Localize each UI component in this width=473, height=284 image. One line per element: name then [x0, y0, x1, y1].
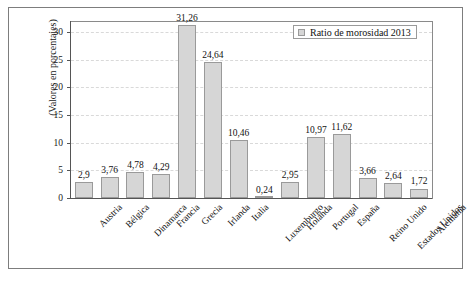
- y-axis-tick-label: 30: [37, 27, 63, 37]
- gridline: [71, 143, 432, 144]
- bar: [410, 189, 428, 199]
- gridline: [71, 115, 432, 116]
- legend-label: Ratio de morosidad 2013: [310, 27, 411, 38]
- x-axis-line: [70, 198, 433, 199]
- bar-value-label: 0,24: [244, 185, 284, 195]
- bar: [307, 137, 325, 198]
- legend-swatch-icon: [298, 29, 305, 36]
- y-axis-tick-label: 5: [37, 165, 63, 175]
- gridline: [71, 60, 432, 61]
- bar-value-label: 24,64: [193, 50, 233, 60]
- chart-legend: Ratio de morosidad 2013: [293, 25, 417, 39]
- bar: [101, 177, 119, 198]
- plot-border-right: [432, 21, 433, 199]
- bar: [75, 182, 93, 198]
- y-axis-tick-label: 0: [37, 193, 63, 203]
- bar-value-label: 31,26: [167, 13, 207, 23]
- y-axis-tick-label: 25: [37, 55, 63, 65]
- gridline: [71, 87, 432, 88]
- y-axis-tick-label: 10: [37, 138, 63, 148]
- bar-value-label: 2,95: [270, 170, 310, 180]
- chart-figure: (Valores en porcentajes) 051015202530 2,…: [0, 0, 473, 284]
- bar-value-label: 4,29: [141, 162, 181, 172]
- bar-value-label: 1,72: [399, 176, 439, 186]
- bar-value-label: 10,46: [219, 128, 259, 138]
- y-axis-tick-label: 15: [37, 110, 63, 120]
- bar: [255, 196, 273, 198]
- bar: [126, 172, 144, 198]
- y-axis-tick-label: 20: [37, 82, 63, 92]
- bar: [152, 174, 170, 198]
- bar-value-label: 11,62: [322, 122, 362, 132]
